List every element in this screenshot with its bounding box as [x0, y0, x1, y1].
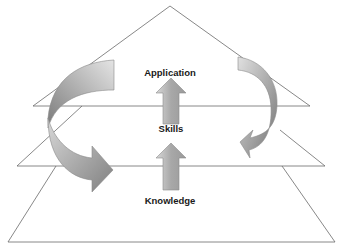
label-skills: Skills: [159, 123, 184, 134]
curved-arrow-right-icon: [238, 57, 277, 158]
curved-arrow-left-icon: [48, 118, 113, 192]
up-arrow-icon: [156, 143, 186, 190]
label-application: Application: [144, 67, 196, 78]
curved-arrow-left-icon: [48, 60, 114, 128]
label-knowledge: Knowledge: [145, 195, 196, 206]
up-arrow-icon: [156, 78, 186, 124]
